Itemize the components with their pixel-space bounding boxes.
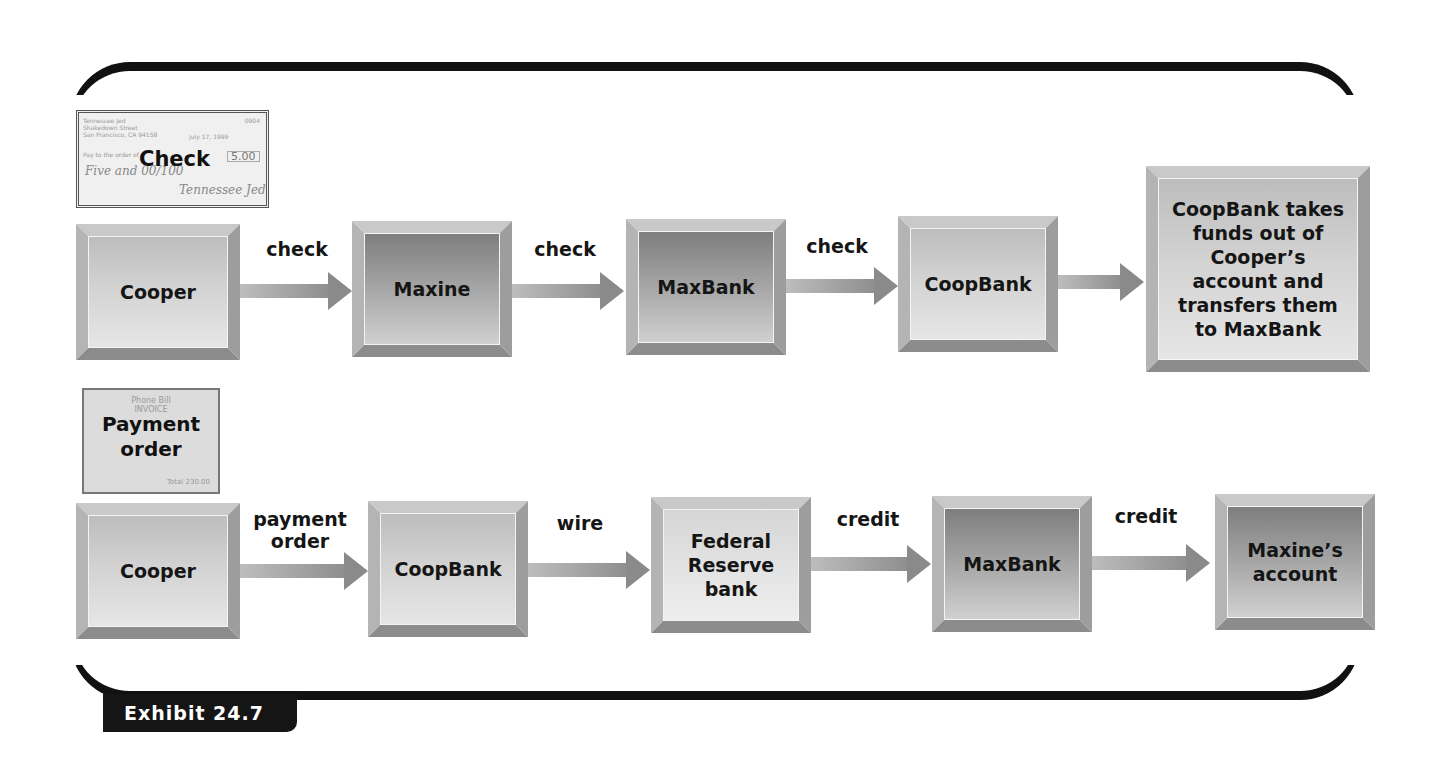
node-coopbank: CoopBank — [898, 216, 1058, 352]
exhibit-label: Exhibit 24.7 — [103, 694, 285, 732]
payment-order-title: Payment order — [84, 412, 218, 462]
edge-label-check: check — [530, 238, 600, 260]
check-payer-name: Tennessee Jed — [83, 117, 125, 124]
node-coopbank: CoopBank — [368, 501, 528, 637]
node-cooper: Cooper — [76, 224, 240, 360]
edge-label-wire: wire — [545, 512, 615, 534]
arrow-right-icon — [1058, 267, 1144, 297]
arrow-right-icon — [512, 276, 624, 306]
arrow-right-icon — [1092, 548, 1210, 578]
node-federal-reserve-bank: Federal Reserve bank — [651, 497, 811, 633]
edge-label-payment-order: payment order — [240, 508, 360, 552]
node-maxbank: MaxBank — [626, 219, 786, 355]
arrow-right-icon — [786, 271, 898, 301]
node-maxines-account: Maxine’s account — [1215, 494, 1375, 630]
check-payer-street: Shakedown Street — [83, 124, 138, 131]
arrow-right-icon — [240, 556, 368, 586]
arrow-right-icon — [240, 276, 352, 306]
check-pay-to-label: Pay to the order of — [83, 151, 139, 158]
edge-label-check: check — [262, 238, 332, 260]
check-amount: 5.00 — [227, 151, 260, 162]
invoice-total: Total 230.00 — [167, 479, 210, 486]
edge-label-credit: credit — [1106, 505, 1186, 527]
arrow-right-icon — [811, 549, 931, 579]
node-maxine: Maxine — [352, 221, 512, 357]
edge-label-credit: credit — [828, 508, 908, 530]
check-date: July 17, 1999 — [189, 133, 228, 140]
node-maxbank: MaxBank — [932, 496, 1092, 632]
arrow-right-icon — [528, 555, 650, 585]
check-signature: Tennessee Jed — [179, 187, 266, 194]
check-number: 0904 — [245, 117, 260, 124]
payment-order-document: Phone Bill INVOICE Payment order Total 2… — [82, 388, 220, 494]
check-title: Check — [139, 147, 210, 171]
node-coopbank-transfer: CoopBank takes funds out of Cooper’s acc… — [1146, 166, 1370, 372]
edge-label-check: check — [802, 235, 872, 257]
check-document: Tennessee Jed Shakedown Street San Franc… — [76, 110, 269, 208]
check-payer-city: San Francisco, CA 94158 — [83, 131, 157, 138]
node-cooper: Cooper — [76, 503, 240, 639]
